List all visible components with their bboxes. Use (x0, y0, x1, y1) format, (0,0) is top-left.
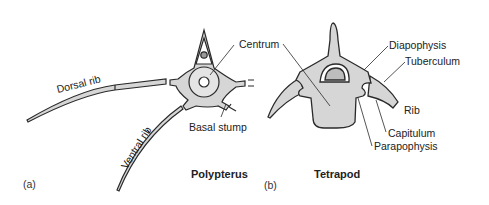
panel-label-b: (b) (264, 180, 277, 191)
left-rib-shape (268, 78, 304, 118)
polypterus-vertebra (27, 30, 254, 191)
label-basal-stump: Basal stump (189, 122, 247, 133)
label-capitulum: Capitulum (388, 128, 435, 139)
panel-label-a: (a) (23, 179, 36, 190)
label-centrum: Centrum (239, 39, 279, 50)
label-parapophysis: Parapophysis (374, 141, 438, 152)
label-tuberculum: Tuberculum (405, 56, 460, 67)
title-polypterus: Polypterus (191, 169, 248, 180)
title-tetrapod: Tetrapod (314, 169, 360, 180)
tetrapod-vertebra (268, 23, 398, 128)
right-rib-shape (368, 76, 398, 108)
dorsal-rib-shape (27, 79, 166, 122)
neural-canal (201, 52, 207, 58)
notochord (199, 77, 209, 87)
label-rib: Rib (404, 105, 420, 116)
label-diapophysis: Diapophysis (389, 40, 446, 51)
